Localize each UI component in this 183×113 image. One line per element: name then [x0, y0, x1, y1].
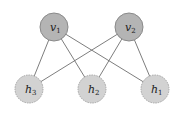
visible-node-v1: v1 [40, 13, 68, 41]
visible-node-v2: v2 [115, 13, 143, 41]
node-subscript-h1: 1 [158, 89, 162, 97]
node-subscript-h3: 3 [32, 89, 36, 97]
hidden-node-h2: h2 [78, 75, 106, 103]
node-label-h3: h [25, 83, 32, 96]
node-label-h1: h [151, 83, 158, 96]
node-label-h2: h [88, 83, 95, 96]
hidden-node-h3: h3 [15, 75, 43, 103]
node-subscript-h2: 2 [95, 89, 99, 97]
node-subscript-v1: 1 [56, 27, 60, 35]
node-subscript-v2: 2 [131, 27, 135, 35]
hidden-node-h1: h1 [141, 75, 169, 103]
bipartite-graph-diagram: v1 v2 h3 h2 h1 [0, 0, 183, 113]
